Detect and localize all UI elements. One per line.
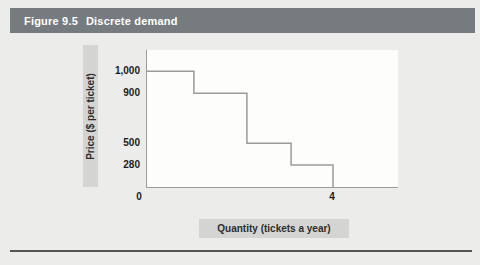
plot-area: [146, 50, 398, 188]
y-tick-label-900: 900: [96, 86, 140, 100]
y-axis-tick-labels: 1,000900500280: [96, 50, 140, 187]
x-axis-label: Quantity (tickets a year): [217, 223, 330, 234]
x-axis-label-box: Quantity (tickets a year): [199, 219, 349, 238]
x-tick-label-0: 0: [136, 190, 142, 204]
figure-bottom-rule: [10, 250, 472, 252]
x-axis-tick-labels: 04: [146, 190, 397, 204]
figure-title: Discrete demand: [86, 15, 178, 27]
demand-curve-path: [147, 71, 333, 187]
x-tick-label-4: 4: [329, 190, 335, 204]
figure-title-bar: Figure 9.5 Discrete demand: [10, 8, 475, 33]
demand-step-curve: [147, 50, 398, 187]
y-tick-label-500: 500: [96, 136, 140, 150]
y-axis-label: Price ($ per ticket): [85, 73, 96, 160]
textbook-figure: Figure 9.5 Discrete demand Price ($ per …: [0, 0, 480, 265]
figure-number: Figure 9.5: [24, 15, 78, 27]
y-tick-label-1000: 1,000: [96, 64, 140, 78]
y-tick-label-280: 280: [96, 158, 140, 172]
